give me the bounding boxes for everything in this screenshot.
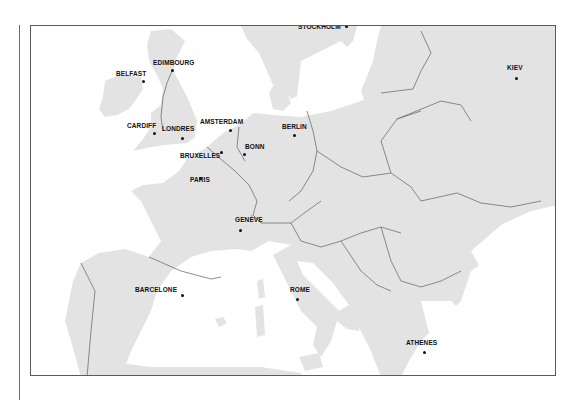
city-label: PARIS [190,176,210,183]
city-label: STOCKHOLM [298,25,341,30]
city-dot-icon [181,137,184,140]
city-dot-icon [293,134,296,137]
city-dot-icon [345,25,348,28]
city-dot-icon [153,132,156,135]
city-dot-icon [243,153,246,156]
city-label: ROME [290,286,310,293]
city-label: LONDRES [162,125,194,132]
city-label: BARCELONE [135,286,177,293]
city-label: BRUXELLES [180,152,220,159]
city-label: BONN [245,143,265,150]
city-label: BERLIN [282,123,307,130]
city-label: AMSTERDAM [200,118,243,125]
city-dot-icon [296,298,299,301]
europe-map[interactable]: STOCKHOLM EDIMBOURG BELFAST KIEV AMSTERD… [30,25,556,376]
city-dot-icon [171,69,174,72]
city-label: KIEV [507,64,523,71]
city-label: CARDIFF [127,122,156,129]
side-rule [19,25,20,400]
city-label: GENÈVE [235,216,263,223]
city-label: BELFAST [116,70,146,77]
map-geography [31,26,556,376]
city-dot-icon [229,129,232,132]
city-label: EDIMBOURG [153,59,194,66]
city-dot-icon [515,77,518,80]
city-dot-icon [142,80,145,83]
city-dot-icon [239,229,242,232]
city-dot-icon [423,351,426,354]
city-label: ATHENES [406,339,437,346]
city-dot-icon [181,294,184,297]
